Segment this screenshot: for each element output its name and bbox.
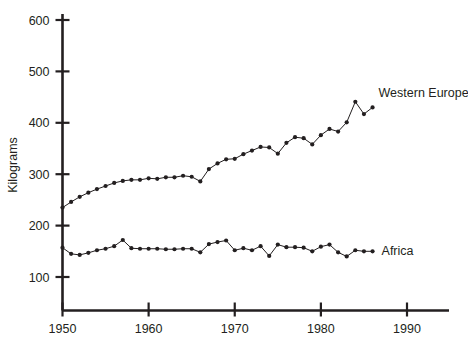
data-point bbox=[345, 120, 349, 124]
data-point bbox=[172, 175, 176, 179]
data-point bbox=[147, 176, 151, 180]
data-point bbox=[121, 238, 125, 242]
data-point bbox=[86, 191, 90, 195]
data-point bbox=[198, 179, 202, 183]
data-point bbox=[267, 145, 271, 149]
data-point bbox=[181, 174, 185, 178]
series-layer bbox=[60, 100, 374, 259]
y-tick-label-200: 200 bbox=[29, 219, 50, 233]
data-point bbox=[112, 244, 116, 248]
y-tick-label-300: 300 bbox=[29, 168, 50, 182]
x-tick-label-1980: 1980 bbox=[307, 322, 335, 336]
data-point bbox=[336, 129, 340, 133]
data-point bbox=[258, 145, 262, 149]
series-label-western-europe: Western Europe bbox=[379, 86, 468, 100]
x-tick-label-1960: 1960 bbox=[135, 322, 163, 336]
data-point bbox=[241, 152, 245, 156]
data-point bbox=[284, 245, 288, 249]
data-point bbox=[224, 238, 228, 242]
data-point bbox=[207, 167, 211, 171]
data-point bbox=[302, 246, 306, 250]
data-point bbox=[121, 179, 125, 183]
data-point bbox=[241, 246, 245, 250]
data-point bbox=[276, 243, 280, 247]
data-point bbox=[147, 247, 151, 251]
data-point bbox=[319, 133, 323, 137]
data-point bbox=[276, 152, 280, 156]
data-point bbox=[353, 100, 357, 104]
data-point bbox=[293, 135, 297, 139]
data-point bbox=[336, 250, 340, 254]
x-tick-label-1970: 1970 bbox=[221, 322, 249, 336]
data-point bbox=[345, 254, 349, 258]
data-point bbox=[103, 247, 107, 251]
data-point bbox=[327, 127, 331, 131]
data-point bbox=[95, 187, 99, 191]
data-point bbox=[138, 178, 142, 182]
data-point bbox=[353, 248, 357, 252]
data-point bbox=[190, 175, 194, 179]
data-point bbox=[103, 184, 107, 188]
series-africa bbox=[60, 238, 374, 259]
data-point bbox=[215, 161, 219, 165]
data-point bbox=[215, 240, 219, 244]
cereal-consumption-line-chart: 100200300400500600Kilograms 195019601970… bbox=[0, 0, 468, 350]
x-tick-label-1990: 1990 bbox=[393, 322, 421, 336]
data-point bbox=[198, 250, 202, 254]
chart-container: 100200300400500600Kilograms 195019601970… bbox=[0, 0, 468, 350]
data-point bbox=[190, 247, 194, 251]
x-tick-label-1950: 1950 bbox=[49, 322, 77, 336]
data-point bbox=[129, 178, 133, 182]
data-point bbox=[112, 181, 116, 185]
data-point bbox=[362, 249, 366, 253]
data-point bbox=[86, 251, 90, 255]
series-label-africa: Africa bbox=[382, 244, 414, 258]
data-point bbox=[370, 249, 374, 253]
data-point bbox=[233, 248, 237, 252]
data-point bbox=[155, 177, 159, 181]
data-point bbox=[181, 247, 185, 251]
data-point bbox=[310, 142, 314, 146]
x-axis: 19501960197019801990 bbox=[49, 303, 449, 336]
y-tick-label-500: 500 bbox=[29, 65, 50, 79]
data-point bbox=[78, 195, 82, 199]
series-polyline bbox=[63, 102, 373, 208]
data-point bbox=[164, 247, 168, 251]
data-point bbox=[155, 247, 159, 251]
data-point bbox=[310, 249, 314, 253]
y-axis: 100200300400500600Kilograms bbox=[6, 14, 70, 311]
data-point bbox=[138, 247, 142, 251]
data-point bbox=[60, 206, 64, 210]
y-tick-label-100: 100 bbox=[29, 271, 50, 285]
data-point bbox=[60, 246, 64, 250]
data-point bbox=[95, 248, 99, 252]
data-point bbox=[302, 136, 306, 140]
data-point bbox=[327, 243, 331, 247]
data-point bbox=[362, 112, 366, 116]
series-western-europe bbox=[60, 100, 374, 210]
y-tick-label-400: 400 bbox=[29, 116, 50, 130]
series-labels: Western EuropeAfrica bbox=[379, 86, 468, 258]
data-point bbox=[164, 175, 168, 179]
data-point bbox=[267, 254, 271, 258]
data-point bbox=[293, 245, 297, 249]
data-point bbox=[370, 105, 374, 109]
data-point bbox=[78, 253, 82, 257]
data-point bbox=[284, 141, 288, 145]
data-point bbox=[258, 244, 262, 248]
y-tick-label-600: 600 bbox=[29, 14, 50, 28]
data-point bbox=[69, 200, 73, 204]
data-point bbox=[207, 242, 211, 246]
data-point bbox=[172, 247, 176, 251]
data-point bbox=[250, 248, 254, 252]
y-axis-title: Kilograms bbox=[6, 137, 20, 193]
data-point bbox=[69, 252, 73, 256]
data-point bbox=[224, 157, 228, 161]
data-point bbox=[319, 245, 323, 249]
data-point bbox=[233, 157, 237, 161]
data-point bbox=[250, 148, 254, 152]
data-point bbox=[129, 246, 133, 250]
